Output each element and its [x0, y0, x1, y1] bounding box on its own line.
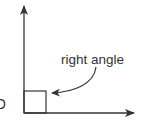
right-angle-label: right angle — [61, 52, 124, 67]
vertex-label: O — [0, 96, 6, 112]
right-angle-diagram: right angle O — [0, 0, 143, 128]
right-angle-marker — [24, 91, 46, 113]
pointer-arrow — [52, 67, 96, 93]
